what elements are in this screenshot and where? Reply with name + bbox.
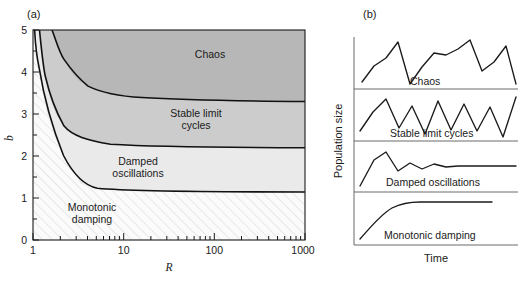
x-tick-10: 10 bbox=[118, 244, 130, 256]
panel-b-x-axis-title: Time bbox=[424, 252, 448, 264]
figure-root: (a) (b) bbox=[0, 0, 532, 283]
series-label-stable-limit-cycles: Stable limit cycles bbox=[390, 127, 473, 139]
region-label-stable-limit-cycles-line1: Stable limit bbox=[170, 107, 221, 119]
y-tick-0: 0 bbox=[21, 234, 27, 246]
region-label-damped-oscillations-line1: Damped bbox=[118, 155, 158, 167]
panel-a-y-axis-title: b bbox=[3, 135, 15, 141]
x-tick-1: 1 bbox=[30, 244, 36, 256]
series-label-chaos: Chaos bbox=[410, 75, 440, 87]
x-tick-1000: 1000 bbox=[291, 244, 315, 256]
x-tick-100: 100 bbox=[206, 244, 224, 256]
panel-a-x-axis-title: R bbox=[164, 261, 172, 273]
region-label-monotonic-damping-line1: Monotonic bbox=[68, 201, 116, 213]
y-tick-2: 2 bbox=[21, 150, 27, 162]
series-label-damped-oscillations: Damped oscillations bbox=[386, 176, 480, 188]
region-label-stable-limit-cycles-line2: cycles bbox=[181, 119, 210, 131]
region-label-chaos: Chaos bbox=[195, 48, 225, 60]
region-label-damped-oscillations-line2: oscillations bbox=[112, 167, 163, 179]
panel-a-phase-diagram: 0 1 2 3 4 5 b bbox=[0, 0, 330, 283]
y-tick-3: 3 bbox=[21, 108, 27, 120]
y-tick-5: 5 bbox=[21, 24, 27, 36]
series-label-monotonic-damping: Monotonic damping bbox=[384, 229, 476, 241]
y-tick-1: 1 bbox=[21, 192, 27, 204]
region-label-monotonic-damping-line2: damping bbox=[72, 213, 112, 225]
panel-b-time-series: Chaos Stable limit cycles Damped oscilla… bbox=[330, 0, 532, 283]
panel-b-y-axis-title: Population size bbox=[332, 104, 344, 179]
y-tick-4: 4 bbox=[21, 66, 27, 78]
